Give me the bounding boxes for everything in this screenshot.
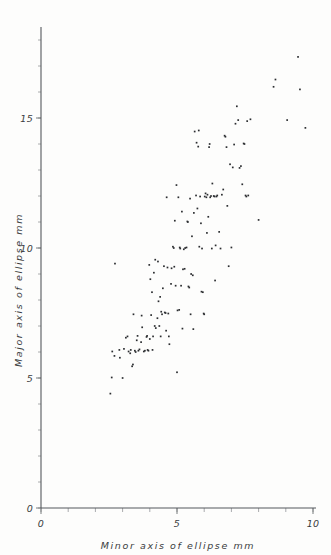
data-point — [133, 313, 135, 315]
data-point — [215, 245, 217, 247]
data-point — [233, 144, 235, 146]
data-point — [206, 196, 208, 198]
data-point — [157, 261, 159, 263]
data-point — [128, 351, 130, 353]
x-tick-label: 0 — [38, 518, 44, 529]
axis-major-ticks — [36, 118, 313, 514]
data-point — [111, 351, 113, 353]
data-point — [240, 165, 242, 167]
data-point — [153, 272, 155, 274]
data-point — [236, 105, 238, 107]
data-point — [186, 247, 188, 249]
data-point-group — [110, 56, 307, 394]
data-point — [129, 352, 131, 354]
data-point — [190, 313, 192, 315]
data-point — [250, 118, 252, 120]
data-point — [114, 355, 116, 357]
data-point — [214, 196, 216, 198]
data-point — [220, 248, 222, 250]
data-point — [165, 312, 167, 314]
data-point — [275, 79, 277, 81]
x-tick-label: 10 — [307, 518, 320, 529]
data-point — [180, 285, 182, 287]
data-point — [216, 195, 218, 197]
data-point — [136, 339, 138, 341]
data-point — [175, 285, 177, 287]
plot-canvas: 051015 0510 Minor axis of ellipse mm Maj… — [0, 0, 331, 555]
data-point — [141, 326, 143, 328]
data-point — [188, 287, 190, 289]
data-point — [144, 350, 146, 352]
data-point — [179, 248, 181, 250]
y-tick-label: 0 — [27, 503, 33, 514]
data-point — [160, 311, 162, 313]
data-point — [160, 336, 162, 338]
data-point — [169, 343, 171, 345]
data-point — [119, 357, 121, 359]
data-point — [161, 313, 163, 315]
y-axis-title: Major axis of ellipse mm — [13, 213, 24, 367]
data-point — [111, 377, 113, 379]
data-point — [206, 232, 208, 234]
data-point — [141, 315, 143, 317]
data-point — [192, 274, 194, 276]
data-point — [207, 216, 209, 218]
data-point — [194, 131, 196, 133]
data-point — [122, 377, 124, 379]
data-point — [110, 393, 112, 395]
data-point — [166, 196, 168, 198]
data-point — [197, 208, 199, 210]
data-point — [170, 283, 172, 285]
data-point — [214, 280, 216, 282]
data-point — [174, 220, 176, 222]
data-point — [162, 287, 164, 289]
data-point — [184, 268, 186, 270]
data-point — [205, 193, 207, 195]
data-point — [201, 248, 203, 250]
data-point — [148, 264, 150, 266]
data-point — [173, 247, 175, 249]
data-point — [155, 327, 157, 329]
data-point — [167, 313, 169, 315]
data-point — [207, 194, 209, 196]
data-point — [140, 341, 142, 343]
data-point — [210, 195, 212, 197]
data-point — [225, 136, 227, 138]
data-point — [231, 247, 233, 249]
data-point — [149, 338, 151, 340]
data-point — [200, 222, 202, 224]
data-point — [168, 336, 170, 338]
data-point — [239, 167, 241, 169]
data-point — [211, 248, 213, 250]
data-point — [114, 263, 116, 265]
data-point — [229, 163, 231, 165]
data-point — [187, 221, 189, 223]
x-axis-tick-labels: 0510 — [38, 518, 320, 529]
data-point — [173, 266, 175, 268]
data-point — [177, 310, 179, 312]
data-point — [130, 349, 132, 351]
data-point — [178, 196, 180, 198]
data-point — [163, 265, 165, 267]
data-point — [167, 267, 169, 269]
data-point — [127, 336, 129, 338]
data-point — [218, 231, 220, 233]
data-point — [148, 350, 150, 352]
data-point — [228, 265, 230, 267]
data-point — [199, 196, 201, 198]
data-point — [221, 194, 223, 196]
data-point — [159, 296, 161, 298]
data-point — [123, 348, 125, 350]
data-point — [150, 314, 152, 316]
data-point — [193, 212, 195, 214]
data-point — [196, 142, 198, 144]
data-point — [204, 196, 206, 198]
data-point — [152, 336, 154, 338]
data-point — [246, 120, 248, 122]
data-point — [149, 278, 151, 280]
data-point — [178, 309, 180, 311]
data-point — [246, 196, 248, 198]
data-point — [247, 195, 249, 197]
data-point — [154, 325, 156, 327]
data-point — [226, 205, 228, 207]
